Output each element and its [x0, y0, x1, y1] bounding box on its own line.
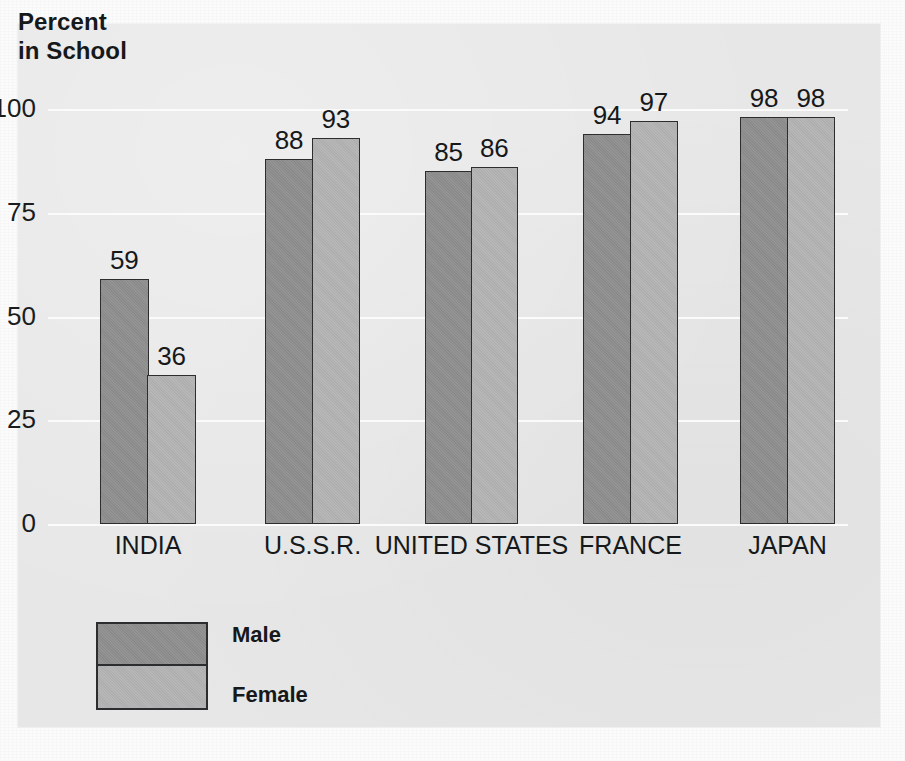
bar-japan-male: 98 [740, 117, 788, 524]
legend-swatch-box [96, 622, 208, 710]
category-label-france: FRANCE [579, 531, 682, 560]
bar-u-s-s-r-female: 93 [312, 138, 360, 524]
chart-title: Percent in School [18, 8, 127, 66]
legend-label-female: Female [232, 684, 308, 706]
bar-group-united-states: 8586UNITED STATES [425, 109, 518, 524]
bar-value-label: 85 [434, 137, 463, 168]
chart-title-line-1: Percent [18, 8, 127, 37]
bar-group-bars: 9497 [583, 109, 678, 524]
bar-group-bars: 9898 [740, 109, 835, 524]
category-label-india: INDIA [115, 531, 182, 560]
legend-swatch-female [98, 666, 206, 708]
bar-france-male: 94 [583, 134, 631, 524]
chart-title-line-2: in School [18, 37, 127, 66]
legend-label-list: Male Female [232, 622, 308, 710]
y-axis-tick-75: 75 [7, 197, 36, 228]
bar-group-u-s-s-r: 8893U.S.S.R. [265, 109, 360, 524]
bar-japan-female: 98 [787, 117, 835, 524]
category-label-japan: JAPAN [748, 531, 827, 560]
bar-value-label: 98 [796, 83, 825, 114]
y-axis-tick-100: 100 [0, 93, 36, 124]
bar-value-label: 86 [480, 133, 509, 164]
legend-label-male: Male [232, 624, 308, 646]
bar-value-label: 88 [275, 125, 304, 156]
bar-value-label: 97 [639, 87, 668, 118]
legend-swatch-male [98, 624, 206, 666]
gridline-0 [48, 524, 848, 526]
category-label-united-states: UNITED STATES [375, 531, 569, 560]
y-axis-tick-0: 0 [22, 508, 36, 539]
bar-value-label: 36 [157, 341, 186, 372]
y-axis-tick-25: 25 [7, 404, 36, 435]
bar-france-female: 97 [630, 121, 678, 524]
bar-united-states-female: 86 [471, 167, 518, 524]
bar-value-label: 59 [110, 245, 139, 276]
bar-value-label: 93 [321, 104, 350, 135]
bar-group-bars: 8586 [425, 109, 518, 524]
bar-group-bars: 8893 [265, 109, 360, 524]
bar-value-label: 94 [593, 100, 622, 131]
bar-united-states-male: 85 [425, 171, 472, 524]
bar-group-india: 5936INDIA [100, 109, 196, 524]
category-label-u-s-s-r: U.S.S.R. [264, 531, 361, 560]
bar-value-label: 98 [750, 83, 779, 114]
y-axis-tick-50: 50 [7, 300, 36, 331]
bar-group-france: 9497FRANCE [583, 109, 678, 524]
chart-legend: Male Female [96, 622, 308, 710]
bar-group-bars: 5936 [100, 109, 196, 524]
bar-india-male: 59 [100, 279, 149, 524]
bar-india-female: 36 [147, 375, 196, 524]
plot-area: 02550751005936INDIA8893U.S.S.R.8586UNITE… [48, 109, 848, 524]
bar-group-japan: 9898JAPAN [740, 109, 835, 524]
bar-u-s-s-r-male: 88 [265, 159, 313, 524]
